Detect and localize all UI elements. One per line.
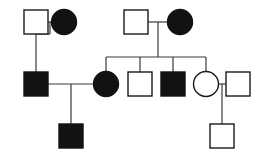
individual-II-4-male-affected bbox=[161, 72, 185, 96]
individual-I-2-female-affected bbox=[52, 10, 77, 35]
individual-II-3-male-unaffected bbox=[128, 72, 152, 96]
individual-I-1-male-unaffected bbox=[24, 10, 48, 34]
mating-group-M4 bbox=[219, 84, 227, 124]
individual-III-1-male-affected bbox=[59, 124, 83, 148]
mating-group-M2 bbox=[106, 22, 206, 72]
individual-I-3-male-unaffected bbox=[124, 10, 148, 34]
individual-II-2-female-affected bbox=[94, 72, 119, 97]
individual-II-1-male-affected bbox=[24, 72, 48, 96]
individual-II-6-male-unaffected bbox=[226, 72, 250, 96]
individual-III-2-male-unaffected bbox=[210, 124, 234, 148]
mating-group-M3 bbox=[48, 84, 94, 124]
pedigree-chart bbox=[0, 0, 260, 157]
individual-I-4-female-affected bbox=[168, 10, 193, 35]
pedigree-svg bbox=[0, 0, 260, 157]
individual-II-5-female-unaffected bbox=[194, 72, 219, 97]
